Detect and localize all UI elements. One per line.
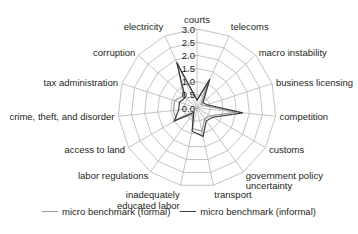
axis-label: competition (280, 111, 329, 122)
radial-tick-label: 3.0 (182, 24, 195, 35)
radial-tick-labels: 0.00.51.01.52.02.53.0 (182, 24, 195, 114)
radial-tick-label: 1.5 (182, 63, 195, 74)
axis-label: access to land (64, 144, 125, 155)
legend-item-formal: micro benchmark (formal) (42, 206, 170, 217)
axis-label: crime, theft, and disorder (9, 111, 114, 122)
legend-label-informal: micro benchmark (informal) (200, 206, 316, 217)
legend-swatch-informal (180, 211, 196, 212)
radial-tick-label: 0.0 (182, 103, 195, 114)
axis-label: corruption (93, 47, 135, 58)
legend-swatch-formal (42, 211, 58, 212)
radar-grid (118, 29, 275, 185)
axis-label: courts (184, 14, 210, 25)
axis-label: labor regulations (78, 170, 148, 181)
radial-tick-label: 0.5 (182, 89, 195, 100)
axis-label: tax administration (44, 77, 118, 88)
axis-label: macro instability (259, 47, 327, 58)
axis-label: business licensing (276, 77, 353, 88)
axis-label: customs (269, 144, 305, 155)
radial-tick-label: 1.0 (182, 76, 195, 87)
legend-item-informal: micro benchmark (informal) (180, 206, 316, 217)
axis-label: telecoms (231, 21, 269, 32)
grid-spoke (197, 55, 256, 108)
axis-label: transport (214, 189, 252, 200)
radial-tick-label: 2.0 (182, 50, 195, 61)
radar-plot: 0.00.51.01.52.02.53.0 courtstelecomsmacr… (0, 0, 358, 210)
legend-label-formal: micro benchmark (formal) (62, 206, 170, 217)
radar-chart: 0.00.51.01.52.02.53.0 courtstelecomsmacr… (0, 0, 358, 234)
grid-spoke (197, 36, 229, 108)
axis-label: electricity (124, 21, 164, 32)
axis-label: government policyuncertainty (246, 170, 323, 192)
radial-tick-label: 2.5 (182, 37, 195, 48)
legend: micro benchmark (formal) micro benchmark… (0, 206, 358, 217)
